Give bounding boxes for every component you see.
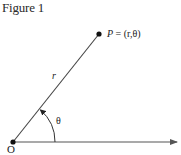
radius-label: r <box>52 70 56 81</box>
point-p-label: P = (r,θ) <box>107 28 141 39</box>
point-p <box>96 31 101 36</box>
point-p-equals: = <box>113 28 124 39</box>
polar-coordinate-diagram <box>0 0 181 155</box>
angle-arc <box>41 110 56 142</box>
angle-label: θ <box>56 115 61 126</box>
point-p-coords: (r,θ) <box>124 28 141 39</box>
origin-label: O <box>7 143 15 155</box>
